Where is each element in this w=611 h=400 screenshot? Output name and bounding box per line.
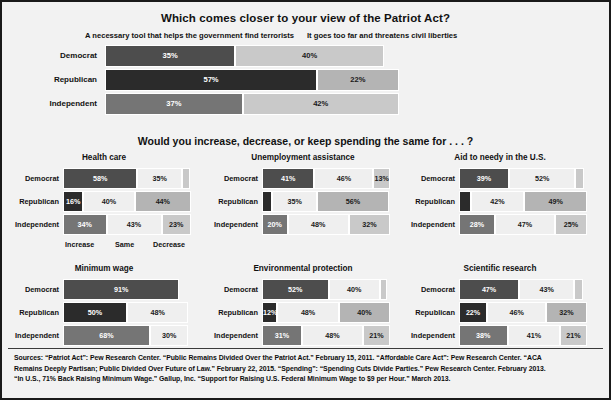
row-label-independent: Independent [409, 325, 455, 346]
axis-label-same: Same [115, 240, 134, 249]
row-label-republican: Republican [212, 302, 258, 323]
row-label-democrat: Democrat [409, 168, 455, 189]
bar-track: 37%42% [105, 93, 477, 115]
spending-row: Republican12%48%40% [212, 302, 394, 323]
row-label-independent: Independent [13, 214, 59, 235]
panel-scientific-research: Scientific researchDemocrat47%43%Republi… [409, 264, 591, 351]
panel-title: Health care [13, 153, 195, 162]
bar-segment-decrease: 21% [363, 325, 390, 346]
bar-segment-increase: 12% [262, 302, 277, 323]
row-label-republican: Republican [409, 302, 455, 323]
bar-segment-decrease: 32% [546, 302, 587, 323]
bar-segment-increase [262, 191, 272, 212]
panel-title: Scientific research [409, 264, 591, 273]
bar-segment-same: 42% [471, 191, 525, 212]
bar-segment-same: 48% [302, 325, 363, 346]
panel-minimum-wage: Minimum wageDemocrat91%Republican50%48%I… [13, 264, 195, 351]
bar-track: 22%46%32% [459, 302, 587, 323]
bar-segment-same: 30% [150, 325, 188, 346]
axis-label-increase: Increase [65, 240, 94, 249]
bar-segment-increase: 52% [262, 279, 329, 300]
bar-segment-increase: 68% [63, 325, 150, 346]
bar-track: 57%22% [105, 69, 477, 91]
panel-aid-to-needy: Aid to needy in the U.S.Democrat39%52%Re… [409, 153, 591, 240]
bar-segment-same: 48% [127, 302, 188, 323]
bar-segment-necessary-tool: 37% [105, 93, 243, 115]
bar-segment-increase: 38% [459, 325, 508, 346]
bar-segment-same: 48% [288, 214, 349, 235]
bar-segment-increase: 34% [63, 214, 107, 235]
row-label-independent: Independent [212, 325, 258, 346]
panel-title: Environmental protection [212, 264, 394, 273]
section1-chart: Democrat35%40%Republican57%22%Independen… [5, 45, 611, 117]
sources-line-2: Remains Deeply Partisan; Public Divided … [14, 364, 597, 375]
panel-title: Minimum wage [13, 264, 195, 273]
bar-segment-necessary-tool: 57% [105, 69, 317, 91]
spending-row: Republican42%49% [409, 191, 591, 212]
row-label-democrat: Democrat [5, 45, 97, 67]
row-label-democrat: Democrat [409, 279, 455, 300]
bar-track: 38%41%21% [459, 325, 587, 346]
bar-segment-too-far: 40% [235, 45, 384, 67]
bar-track: 58%35% [63, 168, 191, 189]
bar-segment-increase: 58% [63, 168, 137, 189]
bar-segment-decrease: 49% [524, 191, 587, 212]
bar-track: 68%30% [63, 325, 191, 346]
row-label-democrat: Democrat [212, 279, 258, 300]
bar-segment-increase: 16% [63, 191, 83, 212]
spending-row: Independent20%48%32% [212, 214, 394, 235]
bar-track: 42%49% [459, 191, 587, 212]
panel-chart: Democrat39%52%Republican42%49%Independen… [409, 165, 591, 240]
axis-label-decrease: Decrease [153, 240, 185, 249]
bar-track: 34%43%23% [63, 214, 191, 235]
spending-row: Democrat91% [13, 279, 195, 300]
panel-chart: Democrat91%Republican50%48%Independent68… [13, 276, 195, 351]
spending-row: Democrat58%35% [13, 168, 195, 189]
bar-segment-increase [459, 191, 471, 212]
panel-unemployment-assistance: Unemployment assistanceDemocrat41%46%13%… [212, 153, 394, 240]
bar-segment-decrease: 23% [162, 214, 191, 235]
section1-title: Which comes closer to your view of the P… [5, 12, 606, 24]
bar-segment-decrease: 21% [560, 325, 587, 346]
row-label-democrat: Democrat [212, 168, 258, 189]
bar-track: 41%46%13% [262, 168, 390, 189]
row-label-democrat: Democrat [13, 168, 59, 189]
bar-segment-same: 40% [83, 191, 134, 212]
bar-segment-increase: 50% [63, 302, 127, 323]
bar-segment-same: 35% [137, 168, 182, 189]
bar-segment-too-far: 42% [243, 93, 399, 115]
row-label-independent: Independent [13, 325, 59, 346]
bar-segment-decrease: 44% [135, 191, 191, 212]
spending-row: Independent38%41%21% [409, 325, 591, 346]
axis-labels: IncreaseSameDecrease [13, 240, 195, 251]
bar-segment-increase: 28% [459, 214, 495, 235]
bar-track: 50%48% [63, 302, 191, 323]
bar-segment-decrease: 40% [339, 302, 390, 323]
bar-track: 39%52% [459, 168, 587, 189]
bar-track: 91% [63, 279, 191, 300]
bar-segment-decrease: 32% [349, 214, 390, 235]
bar-segment-decrease: 56% [317, 191, 389, 212]
bar-segment-necessary-tool: 35% [105, 45, 235, 67]
spending-row: Independent68%30% [13, 325, 195, 346]
panel-chart: Democrat47%43%Republican22%46%32%Indepen… [409, 276, 591, 351]
bar-track: 47%43% [459, 279, 587, 300]
bar-track: 35%40% [105, 45, 477, 67]
row-label-democrat: Democrat [13, 279, 59, 300]
spending-row: Democrat47%43% [409, 279, 591, 300]
bar-segment-increase: 31% [262, 325, 302, 346]
row-label-independent: Independent [5, 93, 97, 115]
row-label-independent: Independent [409, 214, 455, 235]
bar-track: 52%40% [262, 279, 390, 300]
infographic-frame: Which comes closer to your view of the P… [0, 0, 611, 400]
bar-segment-same: 46% [314, 168, 373, 189]
row-label-republican: Republican [212, 191, 258, 212]
row-label-republican: Republican [13, 191, 59, 212]
bar-segment-same: 43% [107, 214, 162, 235]
bar-segment-same: 35% [272, 191, 317, 212]
panel-title: Unemployment assistance [212, 153, 394, 162]
bar-segment-decrease [574, 279, 583, 300]
spending-row: Republican50%48% [13, 302, 195, 323]
panel-environmental-protection: Environmental protectionDemocrat52%40%Re… [212, 264, 394, 351]
patriot-act-row: Republican57%22% [5, 69, 611, 91]
